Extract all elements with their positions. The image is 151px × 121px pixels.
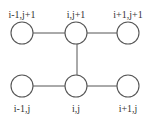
- node-label-tm: i,j+1: [67, 9, 86, 20]
- node-tl: [11, 22, 33, 44]
- node-tr: [117, 22, 139, 44]
- node-br: [117, 75, 139, 97]
- nodes-group: [11, 22, 139, 97]
- node-label-br: i+1,j: [119, 103, 138, 114]
- node-label-bl: i-1,j: [14, 103, 30, 114]
- stencil-diagram: i-1,j+1i,j+1i+1,j+1i-1,ji,ji+1,j: [0, 0, 151, 121]
- node-bl: [11, 75, 33, 97]
- node-label-bm: i,j: [72, 103, 80, 114]
- node-label-tr: i+1,j+1: [113, 9, 142, 20]
- node-label-tl: i-1,j+1: [8, 9, 35, 20]
- node-bm: [65, 75, 87, 97]
- node-tm: [65, 22, 87, 44]
